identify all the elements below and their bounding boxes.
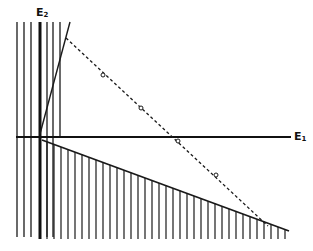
marker-circle [101,73,105,77]
marker-circle [139,106,143,110]
e1-axis-label: E1 [294,131,306,143]
diagram-canvas [0,0,313,251]
lower-wedge-region [42,140,289,239]
marker-circle [214,173,218,177]
steep-boundary-line [40,22,70,134]
e2-axis-label: E2 [36,7,48,19]
marker-circle [176,139,180,143]
